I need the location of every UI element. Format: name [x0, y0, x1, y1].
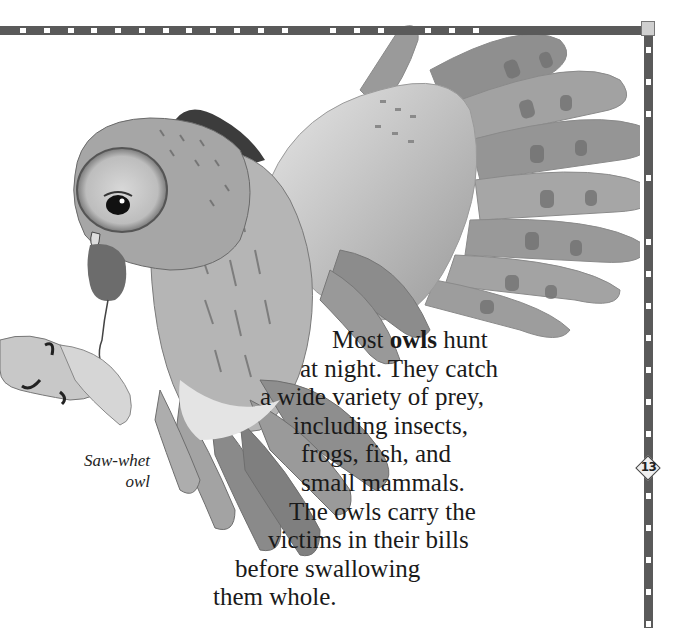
frame-tick [282, 28, 288, 33]
text-line: before swallowing [235, 555, 620, 584]
frame-tick [646, 79, 651, 85]
frame-tick [646, 399, 651, 405]
frame-tick [44, 28, 50, 33]
body-paragraph: Most owls hunt at night. They catch a wi… [290, 326, 620, 612]
frame-corner-square [641, 21, 655, 36]
frame-tick [646, 111, 651, 117]
frame-tick [646, 335, 651, 341]
frame-right-border [644, 30, 653, 628]
text-line: them whole. [213, 583, 620, 612]
frame-tick [646, 239, 651, 245]
facial-disc [77, 148, 167, 232]
frame-tick [449, 28, 455, 33]
talons [0, 336, 131, 425]
frame-tick [186, 28, 192, 33]
text-line: The owls carry the [289, 498, 620, 527]
page-number-badge: 13 [636, 456, 661, 481]
frame-tick [378, 28, 384, 33]
text-line: including insects, [290, 412, 620, 441]
frame-tick [234, 28, 240, 33]
text-span: Most [332, 326, 390, 353]
owl-eye [106, 195, 130, 215]
page-number: 13 [636, 460, 661, 474]
frame-tick [425, 28, 431, 33]
frame-tick [646, 621, 651, 627]
frame-tick [354, 28, 360, 33]
frame-tick [258, 28, 264, 33]
caption-line: Saw-whet [40, 450, 150, 471]
text-line: small mammals. [290, 469, 620, 498]
frame-tick [115, 28, 121, 33]
frame-tick [646, 367, 651, 373]
frame-tick [163, 28, 169, 33]
caption-line: owl [40, 471, 150, 492]
frame-tick [91, 28, 97, 33]
frame-tick [646, 175, 651, 181]
frame-tick [646, 557, 651, 563]
frame-tick [210, 28, 216, 33]
frame-tick [646, 493, 651, 499]
text-span: hunt [437, 326, 488, 353]
frame-tick [473, 28, 479, 33]
book-page: 13 Most owls hunt at night. They catch a… [0, 0, 680, 628]
frame-tick [646, 431, 651, 437]
frame-tick [646, 589, 651, 595]
text-line: Most owls hunt [290, 326, 620, 355]
text-line: frogs, fish, and [290, 440, 620, 469]
text-line: at night. They catch [290, 355, 620, 384]
text-line: a wide variety of prey, [260, 383, 620, 412]
text-line: victims in their bills [268, 526, 620, 555]
frame-tick [68, 28, 74, 33]
frame-tick [330, 28, 336, 33]
frame-tick [646, 303, 651, 309]
frame-top-border [0, 26, 646, 35]
illustration-caption: Saw-whet owl [40, 450, 150, 492]
frame-tick [646, 47, 651, 53]
keyword-owls: owls [390, 326, 437, 353]
frame-tick [646, 525, 651, 531]
frame-tick [646, 271, 651, 277]
frame-tick [139, 28, 145, 33]
frame-tick [20, 28, 26, 33]
